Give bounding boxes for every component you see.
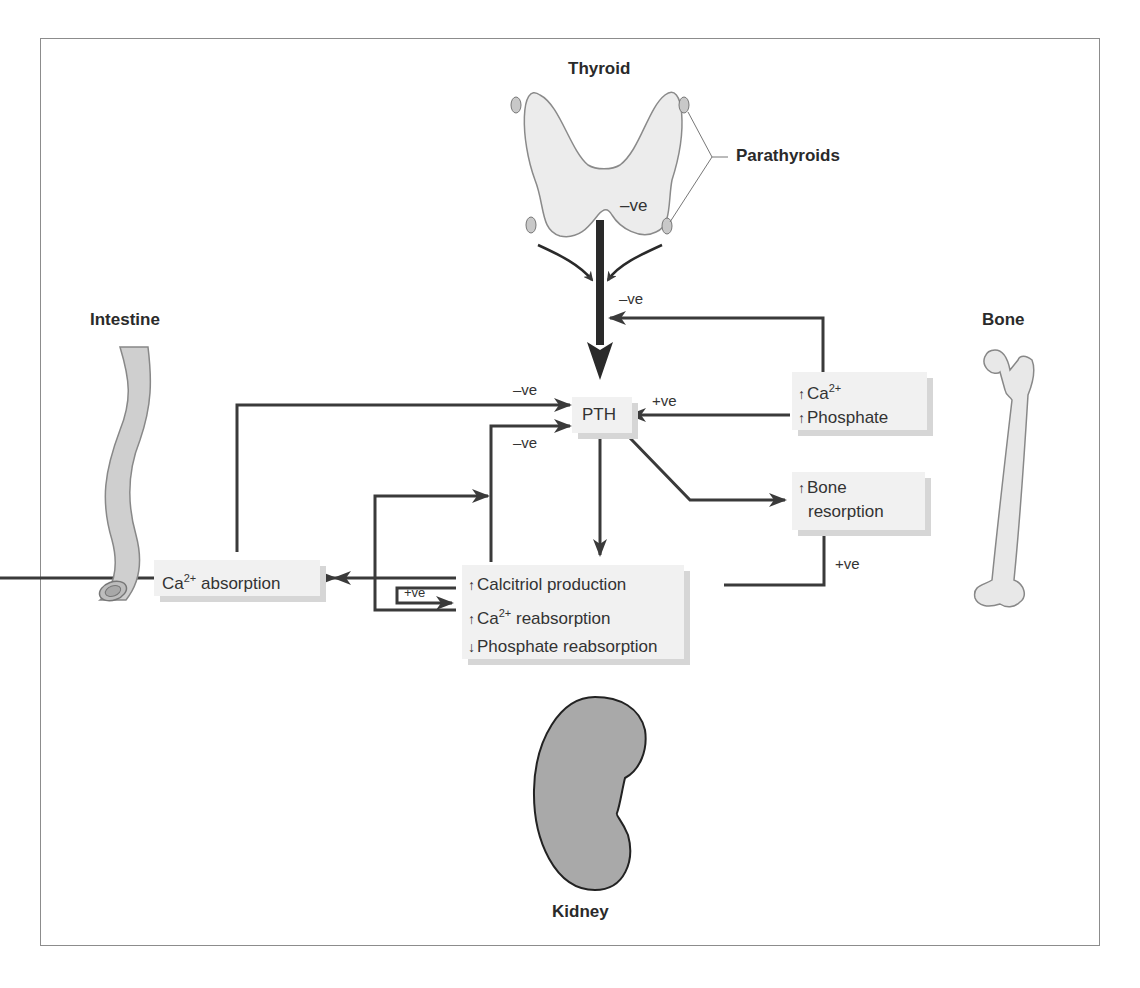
- ca-phosphate-positive-sign: +ve: [652, 392, 677, 409]
- ca-phosphate-box: ↑Ca2+ ↑Phosphate: [792, 372, 927, 430]
- ca-absorption-box: Ca2+ absorption: [154, 560, 320, 596]
- intestine-icon: [97, 347, 151, 604]
- bone-resorption-box: ↑Bone resorption: [792, 472, 925, 530]
- ca-phosphate-negative-feedback-arrow: [610, 318, 823, 372]
- intestine-label: Intestine: [90, 310, 160, 330]
- pth-box: PTH: [572, 397, 632, 433]
- kidney-effects-box: ↑Calcitriol production ↑Ca2+ reabsorptio…: [462, 565, 684, 659]
- parathyroid-secretion-arrow-right: [608, 245, 662, 280]
- thyroid-icon: [524, 92, 682, 236]
- up-arrow-icon: ↑: [468, 611, 475, 627]
- up-arrow-icon: ↑: [798, 480, 805, 496]
- parathyroid-secretion-arrow-left: [538, 245, 592, 280]
- pth-label: PTH: [582, 403, 632, 427]
- bone-positive-sign: +ve: [835, 555, 860, 572]
- down-arrow-icon: ↓: [468, 639, 475, 655]
- thyroid-label: Thyroid: [568, 59, 630, 79]
- bone-label: Bone: [982, 310, 1025, 330]
- kidney-loop-positive-sign: +ve: [404, 585, 425, 600]
- kidney-label: Kidney: [552, 902, 609, 922]
- kidney-icon: [534, 697, 646, 890]
- intestine-negative-sign: –ve: [513, 381, 537, 398]
- pth-to-bone-resorption-arrow: [630, 438, 785, 500]
- up-arrow-icon: ↑: [798, 386, 805, 402]
- calcitriol-negative-sign: –ve: [513, 434, 537, 451]
- up-arrow-icon: ↑: [798, 410, 805, 426]
- feedback-negative-sign: –ve: [619, 290, 643, 307]
- parathyroids-label: Parathyroids: [736, 146, 840, 166]
- bone-femur-icon: [975, 350, 1034, 607]
- diagram-graphics: [0, 0, 1140, 988]
- up-arrow-icon: ↑: [468, 577, 475, 593]
- thyroid-negative-sign: –ve: [620, 196, 647, 216]
